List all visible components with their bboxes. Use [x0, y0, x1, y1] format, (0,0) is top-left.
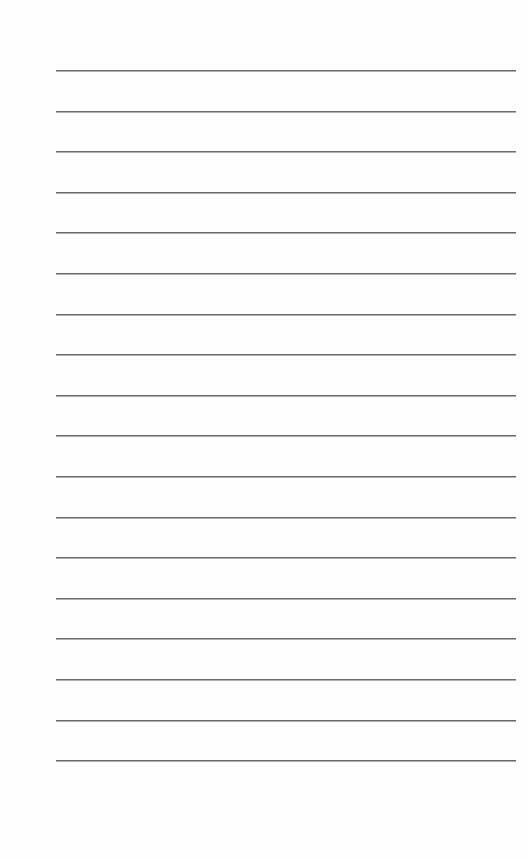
ruled-line	[56, 517, 516, 519]
ruled-line	[56, 557, 516, 559]
ruled-line	[56, 192, 516, 194]
ruled-line	[56, 232, 516, 234]
lined-page	[0, 0, 529, 861]
ruled-line	[56, 395, 516, 397]
ruled-line	[56, 354, 516, 356]
ruled-line	[56, 111, 516, 113]
ruled-line	[56, 638, 516, 640]
ruled-line	[56, 760, 516, 762]
ruled-line	[56, 273, 516, 275]
ruled-line	[56, 151, 516, 153]
ruled-line	[56, 70, 516, 72]
ruled-line	[56, 476, 516, 478]
ruled-line	[56, 435, 516, 437]
ruled-line	[56, 598, 516, 600]
ruled-line	[56, 720, 516, 722]
ruled-line	[56, 679, 516, 681]
ruled-line	[56, 314, 516, 316]
